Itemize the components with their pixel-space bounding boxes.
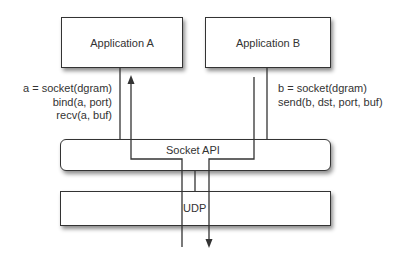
arrow-down-icon <box>206 239 213 248</box>
app-b-calls: b = socket(dgram) send(b, dst, port, buf… <box>278 82 383 109</box>
app-a-calls: a = socket(dgram) bind(a, port) recv(a, … <box>0 82 112 123</box>
app-a-call-socket: a = socket(dgram) <box>0 82 112 96</box>
connector-lines <box>0 0 404 260</box>
app-a-call-bind: bind(a, port) <box>0 96 112 110</box>
arrow-up-icon <box>128 75 135 84</box>
app-b-call-send: send(b, dst, port, buf) <box>278 96 383 110</box>
socket-api-label: Socket API <box>166 144 220 158</box>
udp-label: UDP <box>183 202 206 216</box>
app-a-call-recv: recv(a, buf) <box>0 109 112 123</box>
app-b-call-socket: b = socket(dgram) <box>278 82 383 96</box>
